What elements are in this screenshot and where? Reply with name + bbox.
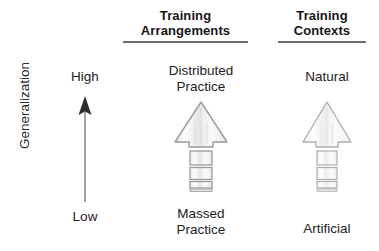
generalization-diagram: Training Arrangements Training Contexts …: [0, 0, 379, 251]
header-underline: [123, 41, 248, 43]
column-header-line-1: Training: [278, 8, 366, 23]
generalization-up-arrow-icon: [72, 96, 98, 202]
arrow-segment: [190, 151, 212, 165]
axis-label-high: High: [50, 69, 120, 84]
block-arrow-training-contexts: [298, 100, 356, 192]
caption-artificial: Artificial: [282, 221, 372, 237]
header-underline: [278, 41, 366, 43]
caption-line-1: Massed: [141, 206, 261, 222]
axis-title-generalization: Generalization: [17, 46, 32, 166]
caption-massed-practice: Massed Practice: [141, 206, 261, 238]
arrow-segment: [190, 189, 212, 192]
arrow-segment: [317, 151, 337, 165]
column-header-line-2: Arrangements: [123, 23, 248, 38]
caption-line-2: Practice: [141, 222, 261, 238]
column-header-line-2: Contexts: [278, 23, 366, 38]
arrow-segment: [190, 168, 212, 180]
block-arrow-training-arrangements: [172, 100, 230, 192]
axis-label-low: Low: [50, 209, 120, 224]
caption-line-1: Distributed: [141, 63, 261, 79]
column-header-training-arrangements: Training Arrangements: [123, 8, 248, 43]
caption-distributed-practice: Distributed Practice: [141, 63, 261, 95]
arrow-segment: [317, 189, 337, 191]
caption-line-2: Practice: [141, 79, 261, 95]
arrow-segment: [190, 182, 212, 189]
arrow-segment: [317, 168, 337, 180]
column-header-training-contexts: Training Contexts: [278, 8, 366, 43]
column-header-line-1: Training: [123, 8, 248, 23]
caption-natural: Natural: [282, 69, 372, 85]
arrow-segment: [317, 182, 337, 189]
